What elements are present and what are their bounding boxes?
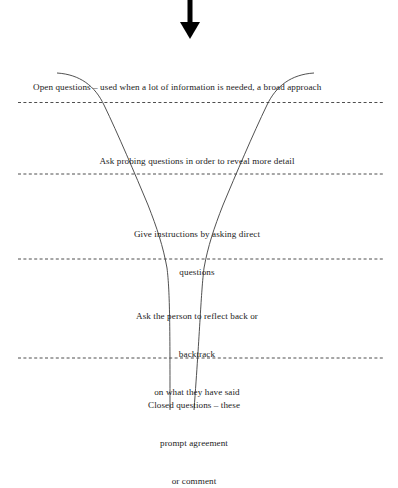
band-label-closed-questions: Closed questions – these prompt agreemen… bbox=[148, 374, 240, 488]
band-line: prompt agreement bbox=[148, 437, 240, 450]
band-line: Closed questions – these bbox=[148, 399, 240, 412]
band-line: Give instructions by asking direct bbox=[134, 228, 260, 241]
band-line: Ask probing questions in order to reveal… bbox=[99, 155, 294, 168]
band-line: backtrack bbox=[136, 348, 258, 361]
band-line: Open questions – used when a lot of info… bbox=[33, 81, 321, 94]
band-label-probing-questions: Ask probing questions in order to reveal… bbox=[99, 130, 294, 193]
band-line: questions bbox=[134, 266, 260, 279]
band-line: Ask the person to reflect back or bbox=[136, 310, 258, 323]
band-label-open-questions: Open questions – used when a lot of info… bbox=[33, 56, 321, 119]
down-arrow-icon bbox=[180, 0, 200, 39]
band-line: or comment bbox=[148, 475, 240, 488]
